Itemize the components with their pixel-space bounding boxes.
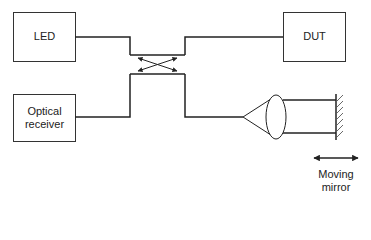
mirror-label: Moving mirror <box>306 168 366 194</box>
mirror-label-line1: Moving <box>306 168 366 181</box>
fiber-lens <box>185 74 243 117</box>
receiver-label-line1: Optical <box>13 105 76 118</box>
fiber-dut <box>185 37 283 55</box>
fiber-receiver <box>75 74 130 117</box>
coupler-cross-arrows <box>138 58 177 71</box>
fiber-led <box>75 37 130 55</box>
mirror <box>336 94 343 140</box>
dut-label: DUT <box>283 30 346 43</box>
receiver-label: Optical receiver <box>13 105 76 131</box>
mirror-label-line2: mirror <box>306 181 366 194</box>
led-label: LED <box>13 30 76 43</box>
lens <box>243 95 286 139</box>
receiver-label-line2: receiver <box>13 118 76 131</box>
